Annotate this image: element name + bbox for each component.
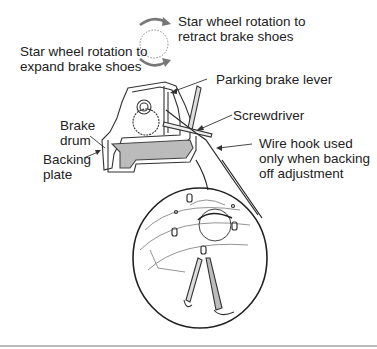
label-expand: Star wheel rotation to expand brake shoe… bbox=[20, 44, 148, 74]
star-wheel bbox=[133, 109, 159, 135]
label-backing-plate: Backing plate bbox=[43, 152, 91, 182]
label-wire-hook: Wire hook used only when backing off adj… bbox=[259, 136, 370, 181]
label-parking-brake-lever: Parking brake lever bbox=[216, 72, 332, 87]
retract-arrow bbox=[140, 19, 166, 25]
tools-in-detail bbox=[184, 258, 234, 315]
label-screwdriver: Screwdriver bbox=[233, 108, 304, 123]
adjuster-pin bbox=[137, 100, 151, 114]
screwdriver-shaft bbox=[163, 122, 212, 137]
label-retract: Star wheel rotation to retract brake sho… bbox=[178, 14, 306, 44]
label-brake-drum: Brake drum bbox=[60, 118, 95, 148]
section-view bbox=[102, 82, 258, 215]
parking-brake-lever bbox=[188, 86, 201, 130]
bottom-divider bbox=[0, 345, 377, 347]
lug-nuts bbox=[172, 194, 237, 254]
detail-view bbox=[133, 160, 267, 328]
